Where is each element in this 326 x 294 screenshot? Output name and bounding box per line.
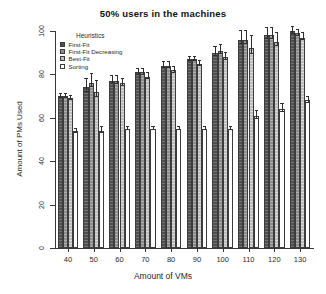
x-tick-label: 60 [115, 255, 123, 264]
error-bar-cap [255, 118, 258, 119]
error-bar-cap [229, 129, 232, 130]
error-bar-cap [100, 132, 103, 133]
error-bar [272, 27, 273, 39]
x-tick-label: 110 [243, 255, 255, 264]
error-bar [91, 73, 92, 86]
error-bar-cap [177, 129, 180, 130]
error-bar-cap [100, 126, 103, 127]
error-bar-cap [296, 29, 299, 30]
legend-label: Best-Fit [69, 55, 90, 62]
x-tick-mark [300, 248, 301, 252]
legend-label: First-Fit Decreasing [69, 48, 123, 55]
error-bar-cap [203, 126, 206, 127]
error-bar-cap [213, 46, 216, 47]
error-bar-cap [151, 129, 154, 130]
error-bar-cap [90, 73, 93, 74]
error-bar-cap [115, 75, 118, 76]
legend-swatch [60, 49, 65, 54]
x-tick-label: 70 [141, 255, 149, 264]
error-bar [277, 32, 278, 45]
x-tick-label: 90 [193, 255, 201, 264]
error-bar-cap [167, 67, 170, 68]
y-tick-label: 80 [38, 67, 45, 81]
error-bar-cap [177, 126, 180, 127]
error-bar-cap [203, 129, 206, 130]
error-bar-cap [64, 93, 67, 94]
legend-swatch [60, 42, 65, 47]
y-tick-label: 40 [38, 154, 45, 168]
error-bar-cap [265, 38, 268, 39]
error-bar-cap [141, 74, 144, 75]
bar-chart: 50% users in the machines 020406080100 A… [0, 0, 326, 294]
error-bar-cap [193, 60, 196, 61]
error-bar [122, 78, 123, 85]
error-bar-cap [172, 66, 175, 67]
error-bar-cap [162, 61, 165, 62]
error-bar-cap [74, 128, 77, 129]
error-bar-cap [275, 32, 278, 33]
x-tick-label: 80 [167, 255, 175, 264]
bar [125, 129, 130, 248]
error-bar-cap [115, 83, 118, 84]
bar [279, 109, 284, 248]
x-tick-mark [249, 248, 250, 252]
bar [202, 129, 207, 248]
error-bar-cap [291, 33, 294, 34]
error-bar [256, 110, 257, 117]
error-bar-cap [64, 97, 67, 98]
error-bar-cap [90, 86, 93, 87]
error-bar-cap [188, 56, 191, 57]
error-bar [112, 75, 113, 82]
error-bar-cap [224, 59, 227, 60]
error-bar-cap [244, 43, 247, 44]
error-bar [86, 78, 87, 91]
x-tick-mark [197, 248, 198, 252]
error-bar-cap [250, 53, 253, 54]
legend-item: Best-Fit [60, 55, 156, 62]
legend-rows: First-FitFirst-Fit DecreasingBest-FitSor… [60, 41, 156, 71]
error-bar-cap [167, 61, 170, 62]
error-bar [117, 75, 118, 82]
x-tick-mark [120, 248, 121, 252]
error-bar [246, 30, 247, 43]
chart-title: 50% users in the machines [0, 8, 326, 19]
error-bar-cap [110, 83, 113, 84]
error-bar-cap [306, 102, 309, 103]
error-bar-cap [296, 35, 299, 36]
error-bar-cap [121, 78, 124, 79]
legend-item: Sorting [60, 63, 156, 70]
error-bar-cap [275, 45, 278, 46]
error-bar-cap [59, 97, 62, 98]
x-tick-label: 120 [268, 255, 281, 264]
error-bar-cap [301, 32, 304, 33]
legend-item: First-Fit Decreasing [60, 48, 156, 55]
x-tick-label: 100 [216, 255, 229, 264]
error-bar-cap [69, 99, 72, 100]
error-bar [282, 103, 283, 112]
error-bar-cap [110, 75, 113, 76]
y-tick-label: 20 [38, 198, 45, 212]
error-bar-cap [280, 111, 283, 112]
error-bar-cap [229, 126, 232, 127]
error-bar [267, 27, 268, 39]
x-tick-label: 50 [90, 255, 98, 264]
error-bar-cap [69, 95, 72, 96]
legend-swatch [60, 64, 65, 69]
bar [254, 116, 259, 248]
error-bar-cap [244, 30, 247, 31]
y-tick-mark [50, 248, 55, 249]
error-bar-cap [250, 35, 253, 36]
legend-swatch [60, 56, 65, 61]
bar [99, 131, 104, 248]
error-bar-cap [95, 96, 98, 97]
error-bar [215, 46, 216, 55]
error-bar-cap [224, 52, 227, 53]
legend: Heuristics First-FitFirst-Fit Decreasing… [60, 32, 156, 70]
error-bar-cap [188, 60, 191, 61]
error-bar-cap [172, 72, 175, 73]
error-bar-cap [198, 65, 201, 66]
error-bar-cap [126, 126, 129, 127]
bar [150, 129, 155, 248]
legend-label: First-Fit [69, 41, 90, 48]
error-bar-cap [126, 129, 129, 130]
